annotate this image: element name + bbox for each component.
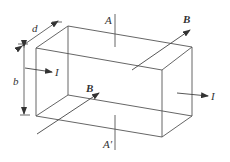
- label-d: d: [32, 22, 38, 34]
- box-edge: [68, 95, 192, 116]
- hall-effect-diagram: A A′ B B I I d b: [0, 0, 230, 162]
- box-edge: [36, 95, 68, 116]
- label-i-right: I: [210, 90, 216, 102]
- current-arrow-right: [177, 93, 208, 96]
- label-a-top: A: [104, 14, 112, 26]
- b-field-arrow-front: [37, 93, 99, 134]
- label-b-dim: b: [13, 75, 19, 87]
- b-field-arrow-top: [132, 30, 190, 70]
- box-edge: [68, 26, 192, 47]
- dimension-d-line: [22, 21, 58, 46]
- current-arrow-left: [25, 68, 52, 72]
- label-b-top: B: [182, 13, 190, 25]
- box-edge: [36, 26, 68, 48]
- label-a-bottom: A′: [102, 138, 113, 150]
- box-edge: [162, 116, 192, 137]
- label-b-front: B: [85, 82, 93, 94]
- box: [36, 26, 192, 137]
- box-edge: [36, 116, 162, 137]
- box-edge: [162, 47, 192, 70]
- label-i-left: I: [54, 66, 60, 78]
